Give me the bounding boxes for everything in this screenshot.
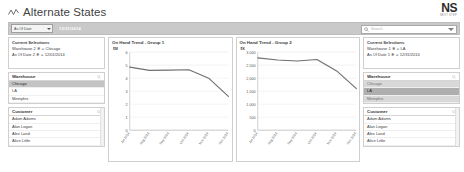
listbox-scrollbar[interactable] [455,108,459,146]
list-item[interactable]: Memphis [364,96,459,103]
svg-text:Nov 2014: Nov 2014 [326,131,338,145]
search-input[interactable]: Search [371,27,446,31]
svg-text:Dec 2014: Dec 2014 [218,131,230,145]
title-group: Alternate States [8,6,106,18]
svg-text:3,000: 3,000 [246,51,255,55]
svg-text:Dec 2014: Dec 2014 [345,131,357,145]
list-item[interactable]: Alex Land [364,131,459,138]
chart-group1-title: On Hand Trend - Group 1 [109,38,232,46]
left-selection-operator: = [41,52,43,58]
list-item[interactable]: Alice Little [9,138,104,145]
zigzag-chart-icon [8,8,19,17]
right-selection-field: As Of Date 1 [367,52,390,58]
lock-icon: ✱ [391,52,394,58]
chart-group2-column: On Hand Trend - Group 2 $K 05001,0001,50… [236,37,361,162]
list-item[interactable]: Chicago [9,81,104,88]
svg-text:Jul 2014: Jul 2014 [120,131,131,144]
svg-text:Sep 2014: Sep 2014 [159,131,171,145]
left-selection-field: As Of Date 2 [12,52,35,58]
page-title: Alternate States [23,6,106,18]
svg-text:Oct 2014: Oct 2014 [306,131,317,144]
list-item[interactable]: Chicago [364,81,459,88]
listbox-scrollbar[interactable] [100,108,104,146]
list-item[interactable]: LA [9,88,104,95]
chart-group1-svg: 0123456Jul 2014Aug 2014Sep 2014Oct 2014N… [109,46,232,161]
list-item[interactable]: Alice Little [364,138,459,145]
right-warehouse-header: Warehouse [364,73,459,81]
svg-text:Oct 2014: Oct 2014 [179,131,190,144]
as-of-date-value: 12/31/2014 [59,26,81,31]
left-customer-listbox: Customer Adam Adams Alan Logan Alex Land… [8,107,105,147]
svg-text:3: 3 [126,90,128,94]
right-selection-value: 12/31/2014 [400,52,420,58]
svg-text:Sep 2014: Sep 2014 [286,131,298,145]
alternate-states-app: Alternate States NS NEXT STEP As Of Date… [0,0,464,172]
list-item[interactable]: LA [364,88,459,95]
left-sidebar: Current Selections Warehouse 2 ✱ = Chica… [8,37,105,162]
chart-group1-column: On Hand Trend - Group 1 $M 0123456Jul 20… [108,37,233,162]
as-of-date-dropdown-label: As Of Date [14,27,32,31]
search-chevron-down-icon[interactable] [448,28,454,31]
right-customer-title: Customer [367,109,388,114]
left-customer-title: Customer [12,109,33,114]
right-current-selections-panel: Current Selections Warehouse 1 ✱ = LA As… [363,37,460,69]
lock-icon: ✱ [36,52,39,58]
listbox-search-icon[interactable] [97,75,101,79]
left-customer-header: Customer [9,108,104,116]
svg-text:500: 500 [249,116,255,120]
listbox-search-icon[interactable] [452,75,456,79]
app-header: Alternate States NS NEXT STEP [8,2,460,22]
left-current-selections-title: Current Selections [9,38,104,46]
svg-text:Aug 2014: Aug 2014 [139,131,151,145]
list-item[interactable]: Adam Adams [9,116,104,123]
right-customer-header: Customer [364,108,459,116]
right-sidebar: Current Selections Warehouse 1 ✱ = LA As… [363,37,460,162]
svg-text:Nov 2014: Nov 2014 [198,131,210,145]
right-warehouse-listbox: Warehouse Chicago LA Memphis [363,72,460,104]
logo-mark-text: NS [441,3,457,14]
chart-group2-panel: On Hand Trend - Group 2 $K 05001,0001,50… [236,37,361,162]
svg-text:2,500: 2,500 [246,64,255,68]
list-item[interactable]: Adam Adams [364,116,459,123]
left-warehouse-title: Warehouse [12,74,36,79]
chart-group1-plot[interactable]: $M 0123456Jul 2014Aug 2014Sep 2014Oct 20… [109,46,232,161]
chart-group2-svg: 05001,0001,5002,0002,5003,000Jul 2014Aug… [237,46,360,161]
right-warehouse-title: Warehouse [367,74,391,79]
left-warehouse-listbox: Warehouse Chicago LA Memphis [8,72,105,104]
search-icon [364,27,369,32]
svg-text:Aug 2014: Aug 2014 [266,131,278,145]
right-selection-row: As Of Date 1 ✱ = 12/31/2014 [364,52,459,58]
svg-text:2: 2 [126,103,128,107]
logo-sub-text: NEXT STEP [440,14,457,17]
right-selection-operator: = [396,52,398,58]
svg-text:1,000: 1,000 [246,103,255,107]
list-item[interactable]: Alan Logan [364,124,459,131]
svg-text:Jul 2014: Jul 2014 [248,131,259,144]
left-warehouse-header: Warehouse [9,73,104,81]
as-of-date-dropdown[interactable]: As Of Date [11,24,53,33]
list-item[interactable]: Memphis [9,96,104,103]
svg-text:6: 6 [126,51,128,55]
right-current-selections-title: Current Selections [364,38,459,46]
toolbar: As Of Date 12/31/2014 Search [8,22,460,35]
chart-group2-plot[interactable]: $K 05001,0001,5002,0002,5003,000Jul 2014… [237,46,360,161]
chart-group1-panel: On Hand Trend - Group 1 $M 0123456Jul 20… [108,37,233,162]
svg-text:4: 4 [126,77,128,81]
chart-group2-title: On Hand Trend - Group 2 [237,38,360,46]
list-item[interactable]: Alex Land [9,131,104,138]
svg-text:2,000: 2,000 [246,77,255,81]
main-content: Current Selections Warehouse 2 ✱ = Chica… [8,37,460,162]
chevron-down-icon [47,28,51,30]
search-box[interactable]: Search [361,25,457,34]
list-item[interactable]: Alan Logan [9,124,104,131]
right-customer-listbox: Customer Adam Adams Alan Logan Alex Land… [363,107,460,147]
svg-text:5: 5 [126,64,128,68]
svg-text:1: 1 [126,116,128,120]
left-selection-value: 12/01/2014 [45,52,65,58]
brand-logo: NS NEXT STEP [440,3,457,17]
left-current-selections-panel: Current Selections Warehouse 2 ✱ = Chica… [8,37,105,69]
svg-text:1,500: 1,500 [246,90,255,94]
left-selection-row: As Of Date 2 ✱ = 12/01/2014 [9,52,104,58]
